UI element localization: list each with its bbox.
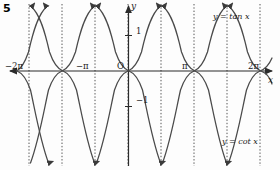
x-axis-label: x — [268, 76, 273, 85]
origin-label: O — [117, 62, 124, 71]
cot-curve-label: y = cot x — [222, 138, 258, 146]
x-tick-label-2pi: 2π — [248, 62, 259, 71]
x-tick-label-pi: π — [182, 62, 188, 71]
y-tick-label-1: 1 — [136, 27, 141, 36]
tan-curve-label: y = tan x — [213, 13, 250, 21]
y-tick-label-neg-1: −1 — [136, 96, 149, 105]
x-tick-label-neg-2pi: −2π — [5, 62, 23, 71]
x-tick-label-neg-pi: −π — [76, 62, 89, 71]
trig-graph-figure: 5 — [0, 0, 280, 170]
y-axis-label: y — [131, 2, 136, 11]
